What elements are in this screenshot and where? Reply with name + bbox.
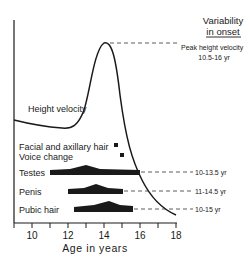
testes-bar — [50, 165, 140, 175]
testes-range: 10-13.5 yr — [195, 169, 227, 177]
penis-range: 11-14.5 yr — [195, 188, 227, 196]
peak-range: 10.5-16 yr — [198, 54, 230, 62]
pubic-hair-label: Pubic hair — [19, 205, 59, 215]
x-axis-title: Age in years — [62, 242, 128, 254]
voice-change-marker — [120, 153, 124, 157]
tick-label-14: 14 — [98, 230, 110, 241]
tick-label-16: 16 — [134, 230, 146, 241]
penis-label: Penis — [19, 187, 42, 197]
height-velocity-label: Height velocity — [28, 104, 87, 114]
pubic-hair-bar — [74, 201, 133, 212]
x-axis-ticks — [14, 223, 176, 228]
testes-label: Testes — [19, 168, 46, 178]
facial-hair-marker — [114, 143, 118, 147]
penis-bar — [68, 184, 123, 194]
peak-label: Peak height velocity — [181, 44, 244, 52]
tick-label-10: 10 — [26, 230, 38, 241]
tick-label-18: 18 — [170, 230, 182, 241]
tick-label-12: 12 — [62, 230, 74, 241]
variability-header-line2: in onset — [206, 26, 240, 37]
voice-change-label: Voice change — [19, 152, 73, 162]
puberty-diagram: 10 12 14 16 18 Age in years Variability … — [0, 0, 250, 261]
pubic-hair-range: 10-15 yr — [195, 206, 221, 214]
variability-header-line1: Variability — [203, 15, 244, 26]
facial-hair-label: Facial and axillary hair — [19, 142, 109, 152]
